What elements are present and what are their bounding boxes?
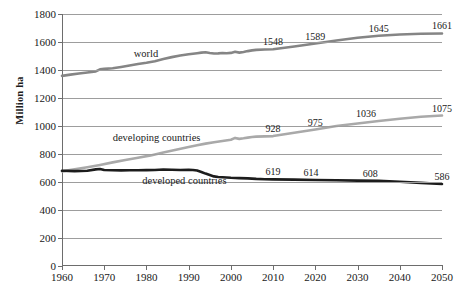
x-axis-tick	[146, 265, 147, 270]
x-axis-tick	[273, 265, 274, 270]
x-axis-tick-label: 2030	[347, 271, 369, 283]
x-axis-tick-label: 1990	[178, 271, 200, 283]
y-axis-tick	[58, 14, 63, 15]
data-point-label: 608	[363, 168, 378, 179]
y-axis-tick-label: 1600	[34, 36, 56, 48]
y-axis-tick-label: 1400	[34, 64, 56, 76]
y-axis-tick	[58, 154, 63, 155]
y-axis-tick	[58, 238, 63, 239]
gridline	[62, 210, 442, 211]
x-axis-tick	[400, 265, 401, 270]
x-axis-tick-label: 1980	[135, 271, 157, 283]
y-axis-tick	[58, 70, 63, 71]
data-point-label: 586	[435, 171, 450, 182]
x-axis-tick	[189, 265, 190, 270]
gridline	[62, 14, 442, 15]
data-point-label: 1075	[432, 103, 452, 114]
y-axis-tick-label: 400	[40, 204, 57, 216]
x-axis-tick	[358, 265, 359, 270]
data-point-label: 1036	[356, 108, 376, 119]
x-axis-tick-label: 2050	[431, 271, 453, 283]
x-axis-tick-label: 1960	[51, 271, 73, 283]
plot-area: 0200400600800100012001400160018001960197…	[62, 14, 442, 266]
y-axis-tick	[58, 126, 63, 127]
y-axis-tick-label: 800	[40, 148, 57, 160]
y-axis-tick-label: 200	[40, 232, 57, 244]
data-point-label: 619	[266, 166, 281, 177]
y-axis-tick-label: 1000	[34, 120, 56, 132]
x-axis-tick-label: 2020	[304, 271, 326, 283]
data-point-label: 1548	[263, 36, 283, 47]
data-point-label: 975	[308, 117, 323, 128]
chart-container: Million ha 02004006008001000120014001600…	[0, 0, 456, 291]
data-point-label: 928	[266, 123, 281, 134]
y-axis-tick	[58, 182, 63, 183]
x-axis-tick	[442, 265, 443, 270]
y-axis-tick	[58, 98, 63, 99]
data-point-label: 1645	[369, 23, 389, 34]
data-point-label: 614	[304, 167, 319, 178]
y-axis-tick	[58, 210, 63, 211]
gridline	[62, 182, 442, 183]
gridline	[62, 126, 442, 127]
data-point-label: 1589	[305, 31, 325, 42]
y-axis-tick	[58, 42, 63, 43]
x-axis-tick-label: 2000	[220, 271, 242, 283]
y-axis-tick-label: 1200	[34, 92, 56, 104]
series-label-developing-countries: developing countries	[113, 132, 201, 143]
series-label-developed-countries: developed countries	[142, 175, 226, 186]
x-axis-tick	[62, 265, 63, 270]
x-axis-tick-label: 2010	[262, 271, 284, 283]
x-axis-tick	[104, 265, 105, 270]
x-axis-tick-label: 1970	[93, 271, 115, 283]
gridline	[62, 98, 442, 99]
gridline	[62, 154, 442, 155]
gridline	[62, 70, 442, 71]
y-axis-title: Million ha	[14, 46, 25, 156]
data-point-label: 1661	[432, 20, 452, 31]
x-axis-tick-label: 2040	[389, 271, 411, 283]
x-axis-tick	[315, 265, 316, 270]
x-axis-tick	[231, 265, 232, 270]
series-line-developing-countries	[62, 116, 442, 172]
y-axis-tick-label: 1800	[34, 8, 56, 20]
gridline	[62, 42, 442, 43]
gridline	[62, 238, 442, 239]
series-label-world: world	[134, 48, 159, 59]
y-axis-tick-label: 600	[40, 176, 57, 188]
